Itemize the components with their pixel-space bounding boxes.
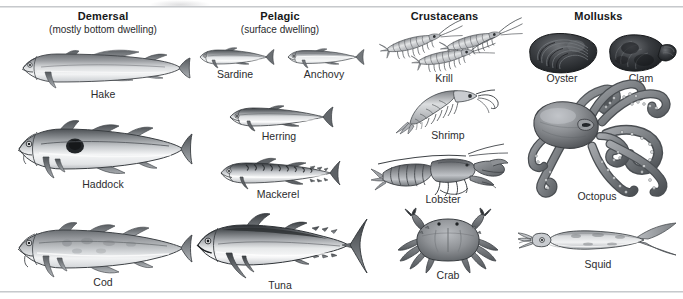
item-lobster: Lobster	[368, 140, 518, 205]
item-haddock: Haddock	[8, 115, 198, 190]
column-header-demersal: Demersal (mostly bottom dwelling)	[8, 10, 198, 36]
column-title: Demersal	[8, 10, 198, 23]
column-title: Mollusks	[516, 10, 681, 23]
shrimp-illustration	[394, 86, 502, 134]
crab-illustration	[392, 208, 504, 274]
item-clam: Clam	[600, 30, 682, 84]
column-subtitle: (mostly bottom dwelling)	[8, 23, 198, 36]
item-label: Hake	[10, 88, 196, 100]
item-label: Sardine	[190, 68, 280, 80]
item-label: Anchovy	[278, 68, 370, 80]
column-header-mollusks: Mollusks	[516, 10, 681, 23]
lobster-illustration	[370, 140, 516, 198]
item-label: Lobster	[368, 193, 518, 205]
seafood-category-figure: Demersal (mostly bottom dwelling)	[0, 0, 683, 299]
column-pelagic: Pelagic (surface dwelling)	[190, 10, 370, 290]
sardine-illustration	[196, 44, 274, 70]
item-krill: Krill	[370, 28, 518, 84]
item-label: Haddock	[8, 178, 198, 190]
item-label: Crab	[378, 269, 518, 281]
column-crustaceans: Crustaceans	[372, 10, 517, 290]
item-herring: Herring	[204, 102, 354, 142]
item-shrimp: Shrimp	[378, 86, 518, 141]
column-subtitle: (surface dwelling)	[190, 23, 370, 36]
item-crab: Crab	[378, 208, 518, 281]
item-label: Cod	[8, 276, 198, 288]
item-anchovy: Anchovy	[278, 44, 370, 80]
octopus-illustration	[514, 78, 680, 198]
item-hake: Hake	[10, 42, 196, 100]
column-demersal: Demersal (mostly bottom dwelling)	[8, 10, 198, 290]
mackerel-illustration	[216, 156, 340, 190]
bottom-divider-rule	[0, 291, 683, 293]
clam-illustration	[604, 30, 678, 74]
scan-artifact-smudge	[150, 0, 210, 6]
item-tuna: Tuna	[188, 212, 372, 291]
item-label: Herring	[204, 130, 354, 142]
hake-illustration	[15, 42, 191, 90]
item-oyster: Oyster	[520, 30, 604, 84]
item-label: Mackerel	[198, 188, 358, 200]
column-title: Pelagic	[190, 10, 370, 23]
herring-illustration	[225, 102, 333, 132]
item-label: Tuna	[188, 279, 372, 291]
item-squid: Squid	[514, 220, 682, 270]
tuna-illustration	[192, 212, 368, 284]
cod-illustration	[13, 215, 193, 281]
squid-illustration	[518, 220, 678, 260]
item-label: Squid	[514, 258, 682, 270]
item-sardine: Sardine	[190, 44, 280, 80]
item-cod: Cod	[8, 215, 198, 288]
oyster-illustration	[524, 30, 600, 74]
top-divider-rule	[0, 6, 683, 8]
item-octopus: Octopus	[512, 78, 682, 202]
column-mollusks: Mollusks	[516, 10, 681, 290]
item-mackerel: Mackerel	[198, 156, 358, 200]
column-title: Crustaceans	[372, 10, 517, 23]
anchovy-illustration	[284, 44, 364, 70]
item-label: Krill	[370, 72, 518, 84]
haddock-illustration	[13, 115, 193, 183]
column-header-pelagic: Pelagic (surface dwelling)	[190, 10, 370, 36]
column-header-crustaceans: Crustaceans	[372, 10, 517, 23]
